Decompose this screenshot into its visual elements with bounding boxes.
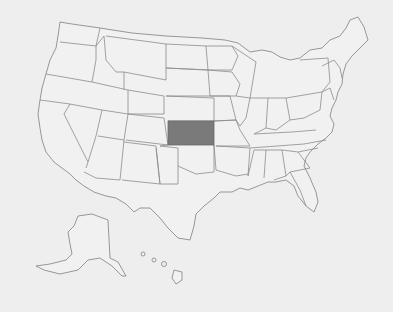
state-alaska bbox=[36, 214, 126, 276]
us-map: Kansas bbox=[0, 0, 393, 312]
state-hawaii bbox=[141, 252, 182, 284]
us-map-svg bbox=[0, 0, 393, 312]
state-kansas[interactable] bbox=[168, 121, 214, 145]
